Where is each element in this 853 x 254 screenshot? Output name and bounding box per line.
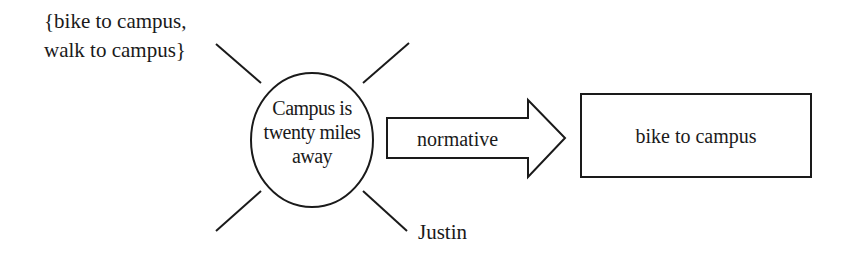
options-label-line1: {bike to campus, — [44, 8, 186, 34]
agent-label: Justin — [418, 219, 467, 245]
spoke-bottom-right — [363, 191, 407, 231]
center-node-text: Campus is twenty miles away — [250, 96, 374, 168]
center-node-line2: twenty miles — [250, 120, 374, 144]
arrow-label: normative — [417, 126, 498, 152]
spoke-top-right — [363, 43, 409, 83]
result-box-label: bike to campus — [581, 123, 811, 149]
center-node-line1: Campus is — [250, 96, 374, 120]
spoke-bottom-left — [216, 191, 261, 231]
spoke-top-left — [216, 44, 261, 83]
center-node-line3: away — [250, 144, 374, 168]
options-label-line2: walk to campus} — [44, 37, 186, 63]
